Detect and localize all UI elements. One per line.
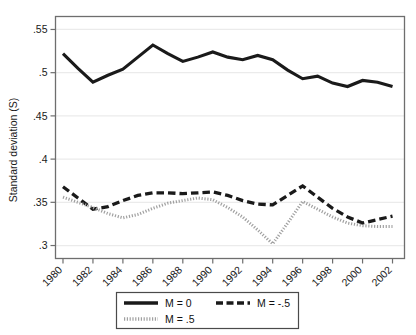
chart-figure: Standard deviation (S) .55.5.45.4.35.3 1… (0, 0, 416, 335)
legend-label-solid: M = 0 (165, 297, 192, 309)
legend-label-dashed: M = -.5 (257, 297, 290, 309)
legend-label-dotted: M = .5 (165, 313, 195, 325)
y-tick-label: .35 (33, 196, 48, 208)
y-axis-title: Standard deviation (S) (7, 98, 19, 202)
chart-legend: M = 0 M = -.5 M = .5 (117, 293, 299, 329)
chart-background (0, 0, 416, 335)
y-tick-label: .45 (33, 110, 48, 122)
y-tick-label: .55 (33, 23, 48, 35)
y-tick-label: .5 (39, 66, 48, 78)
y-tick-label: .3 (39, 239, 48, 251)
y-tick-label: .4 (39, 153, 48, 165)
